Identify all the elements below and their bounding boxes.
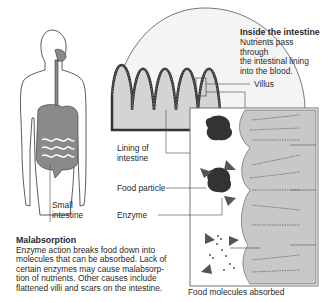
subtitle-line: Nutrients pass through <box>240 38 322 57</box>
detail-panel <box>190 108 318 286</box>
label-line: intestine <box>117 154 149 164</box>
diagram-subtitle: Nutrients pass through the intestinal li… <box>240 38 322 76</box>
malabsorption-line: flattened villi and scars on the intesti… <box>16 284 166 294</box>
label-line: intestine <box>52 211 83 221</box>
subtitle-line: into the blood. <box>240 67 322 77</box>
label-enzyme: Enzyme <box>117 211 147 221</box>
label-villus: Villus <box>254 80 274 90</box>
digestive-tract <box>36 49 78 178</box>
label-food-particle: Food particle <box>117 184 165 194</box>
label-food-molecules: Food molecules absorbed <box>188 288 284 298</box>
malabsorption-section: Malabsorption Enzyme action breaks food … <box>16 236 166 294</box>
label-small-intestine: Small intestine <box>52 201 83 220</box>
label-lining: Lining of intestine <box>117 144 149 163</box>
food-particle-icon <box>207 168 231 193</box>
